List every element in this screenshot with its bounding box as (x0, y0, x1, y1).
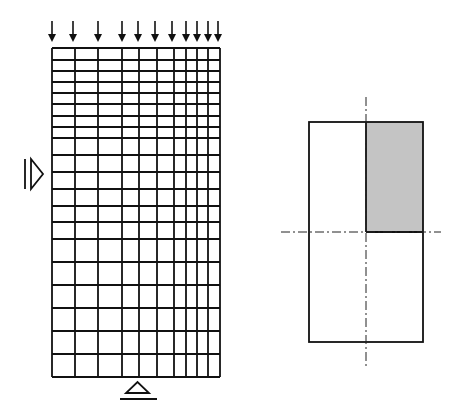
support-triangle (31, 159, 43, 189)
down-arrow-icon (204, 21, 212, 42)
down-arrow-icon (94, 21, 102, 42)
down-arrow-icon (151, 21, 159, 42)
down-arrow-icon (193, 21, 201, 42)
diagram-canvas (0, 0, 469, 419)
down-arrow-icon (69, 21, 77, 42)
cross-section (281, 97, 441, 368)
load-arrows (48, 21, 222, 42)
down-arrow-icon (182, 21, 190, 42)
down-arrow-icon (134, 21, 142, 42)
left-symmetry-support-icon (25, 159, 43, 189)
down-arrow-icon (118, 21, 126, 42)
fe-mesh-grid (52, 48, 220, 377)
down-arrow-icon (168, 21, 176, 42)
down-arrow-icon (48, 21, 56, 42)
shaded-quarter-region (366, 122, 423, 232)
down-arrow-icon (214, 21, 222, 42)
support-triangle (126, 382, 149, 393)
bottom-support-icon (120, 382, 157, 399)
